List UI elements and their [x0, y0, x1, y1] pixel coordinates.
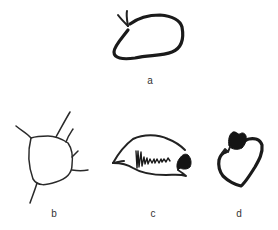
figure-b-drawing	[16, 112, 88, 203]
figure-label-b: b	[51, 209, 57, 219]
figure-a-drawing	[114, 11, 183, 59]
figure-d-drawing	[219, 132, 262, 186]
figure-label-c: c	[151, 209, 156, 219]
drawings-canvas	[0, 0, 278, 230]
figure-label-d: d	[236, 209, 242, 219]
figure-c-drawing	[113, 135, 191, 176]
figure-label-a: a	[147, 76, 153, 86]
